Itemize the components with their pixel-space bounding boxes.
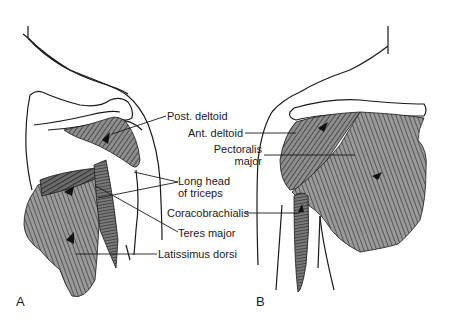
label-long-head-line2: of triceps bbox=[178, 187, 230, 199]
posterior-deltoid bbox=[64, 117, 140, 167]
panel-letter-a: A bbox=[16, 294, 25, 309]
label-latissimus-dorsi: Latissimus dorsi bbox=[158, 248, 237, 260]
label-pectoralis-major: Pectoralis major bbox=[192, 143, 262, 167]
label-teres-major: Teres major bbox=[178, 227, 235, 239]
label-long-head-line1: Long head bbox=[178, 175, 230, 187]
label-coracobrachialis: Coracobrachialis bbox=[167, 207, 249, 219]
label-post-deltoid: Post. deltoid bbox=[167, 110, 228, 122]
panel-letter-b: B bbox=[256, 294, 265, 309]
label-long-head-triceps: Long head of triceps bbox=[178, 175, 230, 199]
label-pectoralis-line2: major bbox=[192, 155, 262, 167]
label-ant-deltoid: Ant. deltoid bbox=[188, 127, 243, 139]
label-pectoralis-line1: Pectoralis bbox=[192, 143, 262, 155]
